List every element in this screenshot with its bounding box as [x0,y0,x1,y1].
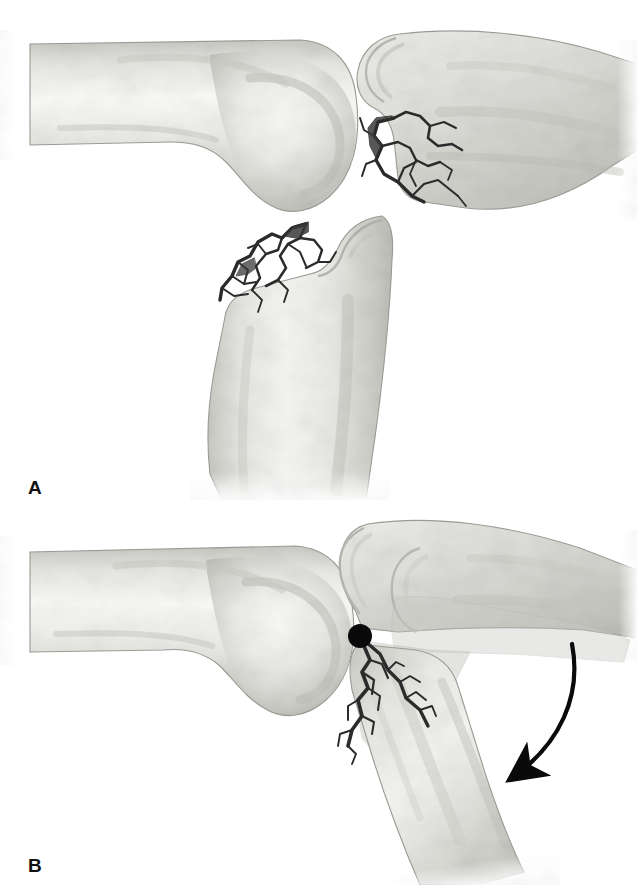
panel-a [0,0,637,500]
panel-a-distal-humerus [0,30,358,211]
panel-label-a: A [28,478,42,497]
panel-a-distal-ulna [190,216,393,500]
panel-label-b: B [28,856,42,875]
panel-b-distal-humerus [0,536,354,716]
panel-a-illustration [0,0,637,500]
pivot-dot [348,624,372,648]
rotation-arrow [512,644,574,778]
panel-b [0,500,637,885]
panel-b-illustration [0,500,637,885]
figure-root: A B [0,0,637,885]
panel-a-olecranon-fragment [357,31,637,220]
